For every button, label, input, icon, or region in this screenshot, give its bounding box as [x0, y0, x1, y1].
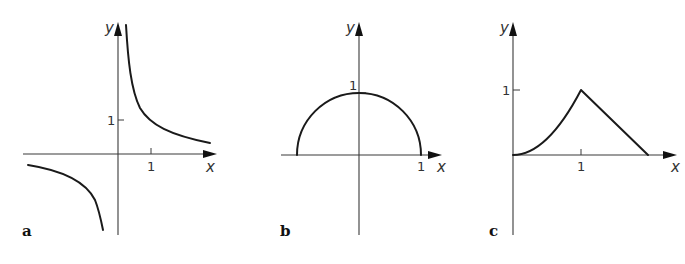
panel-label: a [22, 222, 32, 240]
y-tick-label: 1 [107, 113, 115, 128]
y-tick-label: 1 [502, 83, 510, 98]
x-axis-label: x [205, 158, 215, 176]
y-axis-label: y [345, 19, 356, 37]
y-axis-arrow-icon [114, 22, 122, 36]
x-tick-label: 1 [417, 159, 425, 174]
hyperbola-lower-branch [28, 165, 103, 230]
function-graphs-figure: 1 1 x y a 1 1 x y b 1 1 x y c [0, 0, 685, 264]
y-axis-label: y [104, 19, 115, 37]
hyperbola-upper-branch [126, 25, 210, 143]
x-axis-arrow-icon [203, 150, 217, 158]
panel-b: 1 1 x y b [280, 19, 446, 240]
panel-a: 1 1 x y a [22, 19, 217, 240]
x-axis-label: x [670, 158, 680, 176]
x-tick-label: 1 [577, 159, 585, 174]
y-axis-arrow-icon [509, 22, 517, 36]
piecewise-curve [513, 90, 648, 155]
panel-label: b [280, 222, 291, 240]
panel-c: 1 1 x y c [489, 19, 680, 240]
y-axis-arrow-icon [355, 22, 363, 36]
panel-label: c [489, 222, 498, 240]
y-tick-label: 1 [349, 78, 357, 93]
y-axis-label: y [499, 19, 510, 37]
x-axis-label: x [436, 158, 446, 176]
x-tick-label: 1 [147, 159, 155, 174]
